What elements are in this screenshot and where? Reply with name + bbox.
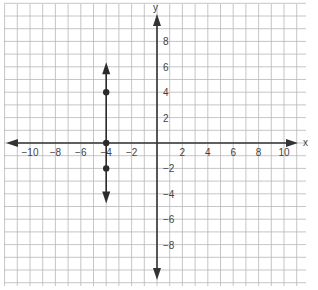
data-point (103, 89, 109, 95)
data-point (103, 140, 109, 146)
x-tick-label: −8 (50, 147, 62, 158)
y-tick-label: −2 (163, 163, 175, 174)
x-tick-label: −10 (22, 147, 39, 158)
y-tick-label: −8 (163, 240, 175, 251)
x-axis-label: x (303, 137, 308, 148)
y-axis-label: y (153, 2, 158, 13)
y-tick-label: 8 (163, 36, 169, 47)
x-axis-right-arrow-icon (286, 139, 298, 147)
coordinate-plane: −10−8−6−4−22468108642−2−4−6−8 x y (0, 0, 318, 290)
grid-lines (4, 3, 306, 286)
x-tick-label: 2 (180, 147, 186, 158)
line-down-arrow-icon (102, 191, 110, 203)
line-up-arrow-icon (102, 62, 110, 74)
y-tick-label: −4 (163, 189, 175, 200)
x-tick-label: −2 (126, 147, 138, 158)
x-tick-label: 4 (205, 147, 211, 158)
y-tick-label: 4 (163, 87, 169, 98)
y-tick-label: 6 (163, 62, 169, 73)
data-point (103, 165, 109, 171)
x-tick-label: −6 (75, 147, 87, 158)
x-tick-label: 10 (278, 147, 290, 158)
x-tick-label: 6 (230, 147, 236, 158)
x-tick-label: 8 (256, 147, 262, 158)
x-axis-left-arrow-icon (6, 139, 18, 147)
y-tick-label: −6 (163, 214, 175, 225)
y-tick-label: 2 (163, 113, 169, 124)
y-axis-down-arrow-icon (153, 268, 161, 280)
plotted-series (102, 62, 110, 203)
